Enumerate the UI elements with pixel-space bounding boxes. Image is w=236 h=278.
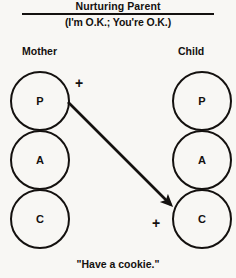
source-plus-marker: + xyxy=(75,76,83,90)
page-subtitle: (I'm O.K.; You're O.K.) xyxy=(0,16,236,28)
nurturing-parent-transaction-diagram: Nurturing Parent (I'm O.K.; You're O.K.)… xyxy=(0,0,236,278)
mother-child-circle: C xyxy=(10,189,70,249)
child-adult-label: A xyxy=(174,132,230,188)
page-title: Nurturing Parent xyxy=(0,0,236,12)
target-plus-marker: + xyxy=(152,216,160,230)
child-adult-circle: A xyxy=(172,130,232,190)
mother-adult-label: A xyxy=(12,132,68,188)
figure-caption: "Have a cookie." xyxy=(0,258,236,270)
mother-adult-circle: A xyxy=(10,130,70,190)
child-parent-circle: P xyxy=(172,71,232,131)
mother-child-label: C xyxy=(12,191,68,247)
column-heading-child: Child xyxy=(178,45,204,57)
child-child-circle: C xyxy=(172,189,232,249)
mother-parent-circle: P xyxy=(10,71,70,131)
mother-parent-label: P xyxy=(12,73,68,129)
child-parent-label: P xyxy=(174,73,230,129)
child-child-label: C xyxy=(174,191,230,247)
column-heading-mother: Mother xyxy=(22,45,57,57)
title-divider xyxy=(22,13,214,15)
